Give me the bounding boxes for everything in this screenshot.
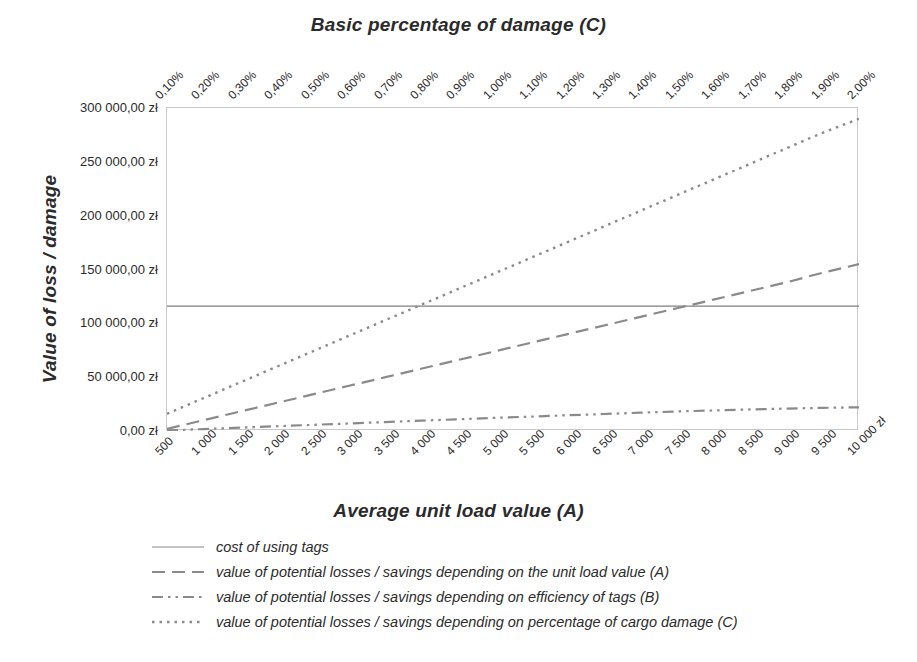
legend-label: cost of using tags [216,539,329,555]
x-tick-label: 500 [152,434,176,458]
top-tick-label: 0,90% [443,68,477,102]
y-tick-label: 0,00 zł [8,423,158,438]
series-line [167,264,859,429]
chart-legend: cost of using tagsvalue of potential los… [152,534,892,634]
legend-item[interactable]: cost of using tags [152,534,892,559]
legend-label: value of potential losses / savings depe… [216,564,669,580]
x-tick-label: 1 500 [225,427,256,458]
top-tick-label: 1,90% [808,68,842,102]
chart-page: Basic percentage of damage (C) 0,10%0,20… [0,0,917,662]
top-tick-label: 1,20% [553,68,587,102]
top-tick-label: 0,70% [371,68,405,102]
top-tick-label: 1,00% [480,68,514,102]
x-tick-label: 4 000 [407,427,438,458]
y-tick-label: 100 000,00 zł [8,315,158,330]
legend-item[interactable]: value of potential losses / savings depe… [152,559,892,584]
top-tick-label: 1,60% [698,68,732,102]
top-tick-label: 0,30% [225,68,259,102]
x-tick-label: 5 500 [516,427,547,458]
x-tick-label: 8 000 [698,427,729,458]
top-tick-label: 1,30% [589,68,623,102]
x-tick-label: 4 500 [443,427,474,458]
y-axis-tick-labels: 0,00 zł50 000,00 zł100 000,00 zł150 000,… [6,107,158,430]
top-tick-label: 0,10% [152,68,186,102]
legend-item[interactable]: value of potential losses / savings depe… [152,609,892,634]
legend-label: value of potential losses / savings depe… [216,589,659,605]
top-tick-label: 0,20% [189,68,223,102]
legend-line-swatch [152,565,204,579]
top-tick-label: 0,80% [407,68,441,102]
x-tick-label: 6 500 [589,427,620,458]
top-tick-label: 0,50% [298,68,332,102]
legend-line-swatch [152,615,204,629]
top-axis-tick-labels: 0,10%0,20%0,30%0,40%0,50%0,60%0,70%0,80%… [166,50,858,102]
legend-line-swatch [152,540,204,554]
top-tick-label: 1,70% [735,68,769,102]
top-tick-label: 0,60% [334,68,368,102]
x-tick-label: 1 000 [189,427,220,458]
legend-item[interactable]: value of potential losses / savings depe… [152,584,892,609]
y-tick-label: 50 000,00 zł [8,369,158,384]
top-tick-label: 2,00% [844,68,878,102]
bottom-axis-tick-labels: 5001 0001 5002 0002 5003 0003 5004 0004 … [166,440,858,496]
top-tick-label: 0,40% [261,68,295,102]
y-tick-label: 250 000,00 zł [8,153,158,168]
series-lines [167,108,859,431]
x-axis-title: Average unit load value (A) [0,500,917,522]
y-tick-label: 150 000,00 zł [8,261,158,276]
x-tick-label: 7 000 [626,427,657,458]
legend-line-swatch [152,590,204,604]
top-tick-label: 1,40% [626,68,660,102]
legend-label: value of potential losses / savings depe… [216,614,738,630]
x-tick-label: 8 500 [735,427,766,458]
plot-area [166,107,858,430]
x-tick-label: 3 000 [334,427,365,458]
top-axis-title: Basic percentage of damage (C) [0,14,917,36]
x-tick-label: 2 000 [261,427,292,458]
x-tick-label: 2 500 [298,427,329,458]
y-tick-label: 200 000,00 zł [8,207,158,222]
x-tick-label: 9 000 [771,427,802,458]
x-tick-label: 9 500 [808,427,839,458]
x-tick-label: 7 500 [662,427,693,458]
top-tick-label: 1,50% [662,68,696,102]
x-tick-label: 5 000 [480,427,511,458]
series-line [167,119,859,414]
top-tick-label: 1,10% [516,68,550,102]
x-tick-label: 6 000 [553,427,584,458]
top-tick-label: 1,80% [771,68,805,102]
x-tick-label: 3 500 [371,427,402,458]
y-tick-label: 300 000,00 zł [8,100,158,115]
